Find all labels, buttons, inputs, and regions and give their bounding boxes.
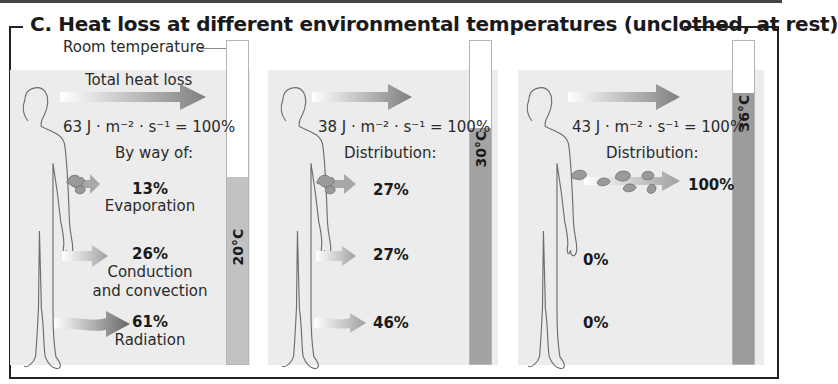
distribution-label: Distribution: [344, 144, 437, 162]
total-heat-loss-value: 38 J · m⁻² · s⁻¹ = 100% [318, 118, 490, 136]
figure-title: C. Heat loss at different environmental … [30, 12, 838, 36]
evaporation-percent: 13% [120, 180, 180, 198]
temperature-label-20c: 20°C [230, 229, 246, 266]
frame-right [777, 26, 779, 378]
total-heat-loss-arrow-icon [60, 84, 206, 110]
evaporation-percent: 100% [688, 176, 734, 194]
frame-bottom [9, 377, 779, 379]
radiation-percent: 0% [583, 314, 608, 332]
conduction-convection-percent: 0% [583, 251, 608, 269]
frame-top-left [9, 26, 23, 28]
by-way-of-label: By way of: [115, 144, 193, 162]
total-heat-loss-value: 43 J · m⁻² · s⁻¹ = 100% [572, 118, 744, 136]
evaporation-arrow-icon [316, 174, 356, 198]
thermometer-36c: 36°C [732, 40, 755, 365]
thermometer-30c: 30°C [469, 40, 492, 365]
conduction-convection-percent: 26% [120, 245, 180, 263]
radiation-percent: 61% [120, 313, 180, 331]
total-heat-loss-arrow-icon [568, 84, 680, 110]
thermometer-fill-20c [227, 177, 248, 364]
conduction-label-line2: and convection [85, 282, 215, 300]
conduction-label-line1: Conduction [90, 263, 210, 281]
conduction-arrow-icon [316, 246, 356, 266]
top-rule [0, 0, 782, 3]
evaporation-label: Evaporation [100, 197, 200, 215]
total-heat-loss-arrow-icon [312, 84, 412, 110]
thermometer-20c: 20°C [226, 40, 249, 365]
evaporation-arrow-icon [570, 167, 680, 199]
total-heat-loss-value: 63 J · m⁻² · s⁻¹ = 100% [63, 118, 235, 136]
conduction-convection-percent: 27% [373, 246, 409, 264]
radiation-arrow-icon [314, 313, 366, 333]
distribution-label: Distribution: [606, 144, 699, 162]
evaporation-percent: 27% [373, 181, 409, 199]
radiation-percent: 46% [373, 314, 409, 332]
temperature-label-30c: 30°C [473, 131, 489, 168]
radiation-label: Radiation [100, 331, 200, 349]
room-temperature-label: Room temperature [63, 38, 205, 56]
evaporation-arrow-icon [66, 174, 100, 198]
